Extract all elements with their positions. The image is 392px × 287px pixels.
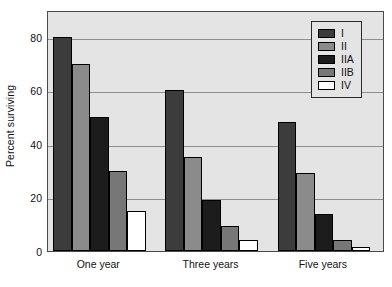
bar (352, 247, 371, 251)
bar (109, 171, 128, 251)
legend-item-label: IIB (341, 67, 354, 78)
y-axis-tick-label: 60 (16, 85, 42, 97)
bar-chart-figure: Percent surviving 020406080 One yearThre… (0, 0, 392, 287)
legend-item-label: IIA (341, 54, 354, 65)
bar (127, 211, 146, 251)
legend-swatch-icon (318, 29, 335, 38)
legend-item-label: I (341, 28, 344, 39)
legend-item-label: II (341, 41, 347, 52)
y-axis-title-text: Percent surviving (4, 85, 16, 167)
bar (165, 90, 184, 251)
bar (72, 64, 91, 251)
legend-swatch-icon (318, 55, 335, 64)
legend-item-label: IV (341, 80, 351, 91)
bar (278, 122, 297, 251)
bar (202, 200, 221, 251)
legend-item: I (318, 27, 354, 40)
legend-swatch-icon (318, 81, 335, 90)
legend-swatch-icon (318, 68, 335, 77)
bar (333, 240, 352, 251)
x-axis-tick-labels: One yearThree yearsFive years (47, 258, 384, 278)
chart-legend: IIIIIAIIBIV (311, 21, 362, 98)
legend-item: IIB (318, 66, 354, 79)
legend-item: IIA (318, 53, 354, 66)
y-axis-tick-label: 80 (16, 32, 42, 44)
legend-item: IV (318, 79, 354, 92)
x-axis-tick-label: Three years (183, 258, 239, 270)
x-axis-tick-label: Five years (299, 258, 347, 270)
bar (296, 173, 315, 251)
bar (90, 117, 109, 251)
y-axis-tick-labels: 020406080 (16, 0, 42, 287)
y-axis-tick-label: 20 (16, 192, 42, 204)
bar (239, 240, 258, 251)
x-axis-tick-label: One year (77, 258, 120, 270)
legend-item: II (318, 40, 354, 53)
bar (221, 226, 240, 251)
legend-swatch-icon (318, 42, 335, 51)
bar (184, 157, 203, 251)
y-axis-tick-label: 40 (16, 139, 42, 151)
y-axis-tick-label: 0 (16, 246, 42, 258)
bar (53, 37, 72, 251)
bar (315, 214, 334, 251)
